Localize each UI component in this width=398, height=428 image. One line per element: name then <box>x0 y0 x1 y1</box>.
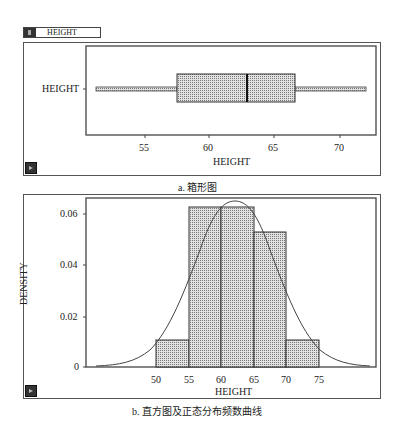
histogram-y-tick: 0.02 <box>60 311 78 322</box>
histogram-x-tick: 75 <box>314 374 324 385</box>
histogram-x-tick: 70 <box>281 374 291 385</box>
histogram-x-tick: 60 <box>216 374 226 385</box>
histogram-y-tick: 0.04 <box>60 259 78 270</box>
histogram-y-label: DENSITY <box>18 262 29 305</box>
histogram-x-tick: 55 <box>184 374 194 385</box>
histogram-y-tick: 0.06 <box>60 208 78 219</box>
histogram-x-label: HEIGHT <box>215 386 252 397</box>
histogram-caption: b. 直方图及正态分布频数曲线 <box>132 403 262 418</box>
histogram-menu-button[interactable] <box>25 385 37 397</box>
histogram-x-tick: 50 <box>151 374 161 385</box>
histogram-y-tick: 0 <box>74 361 79 372</box>
histogram-x-tick: 65 <box>249 374 259 385</box>
